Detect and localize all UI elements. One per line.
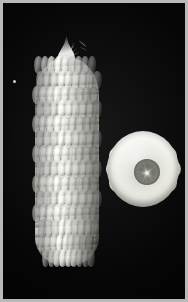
- corn-ear-body: [35, 58, 99, 266]
- ear-of-corn: [33, 36, 101, 266]
- corn-silk-strand: [80, 47, 88, 51]
- corn-kernel: [87, 249, 94, 267]
- photograph-caption: Black-and-white photograph of a white co…: [3, 3, 4, 4]
- cob-core: [134, 159, 160, 185]
- cross-section-disc: [107, 131, 179, 207]
- photograph-frame: Black-and-white photograph of a white co…: [0, 0, 188, 302]
- cob-cross-section: [104, 128, 182, 212]
- background-speck: [13, 80, 16, 83]
- photograph-canvas: Black-and-white photograph of a white co…: [3, 3, 185, 299]
- corn-kernel: [90, 219, 99, 237]
